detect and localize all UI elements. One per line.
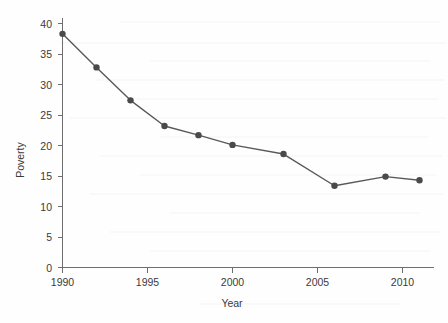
y-tick-labels: 40 35 30 25 20 15 10 5 0 (40, 18, 52, 274)
x-tick-label: 2000 (221, 276, 245, 288)
poverty-series (59, 31, 422, 189)
y-tick-label: 0 (46, 262, 52, 274)
poverty-line-chart: 40 35 30 25 20 15 10 5 0 1990 1995 2000 … (0, 0, 448, 323)
data-point (229, 142, 235, 148)
data-point (161, 123, 167, 129)
data-point (280, 151, 286, 157)
y-tick-label: 25 (40, 109, 52, 121)
series-markers (59, 31, 422, 189)
data-point (331, 183, 337, 189)
y-tick-label: 15 (40, 170, 52, 182)
y-tick-label: 30 (40, 79, 52, 91)
x-axis-title: Year (221, 297, 243, 309)
x-tick-marks (63, 268, 403, 273)
chart-page: 40 35 30 25 20 15 10 5 0 1990 1995 2000 … (0, 0, 448, 323)
data-point (195, 132, 201, 138)
x-tick-label: 1990 (51, 276, 75, 288)
y-tick-label: 5 (46, 231, 52, 243)
y-tick-marks (58, 24, 63, 268)
series-line (63, 34, 420, 186)
data-point (127, 97, 133, 103)
y-tick-label: 10 (40, 201, 52, 213)
x-tick-labels: 1990 1995 2000 2005 2010 (51, 276, 415, 288)
data-point (382, 173, 388, 179)
data-point (93, 64, 99, 70)
data-point (416, 177, 422, 183)
x-tick-label: 2010 (391, 276, 415, 288)
x-tick-label: 2005 (306, 276, 330, 288)
data-point (59, 31, 65, 37)
x-tick-label: 1995 (136, 276, 160, 288)
y-tick-label: 40 (40, 18, 52, 30)
y-tick-label: 20 (40, 140, 52, 152)
y-axis-title: Poverty (14, 141, 26, 177)
y-tick-label: 35 (40, 48, 52, 60)
